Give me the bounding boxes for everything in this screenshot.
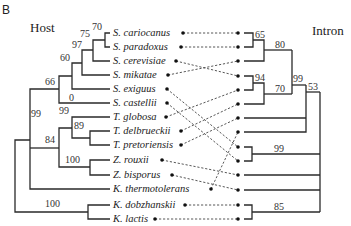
support-99-torulaspora: 99 (59, 105, 69, 116)
support-85: 85 (274, 201, 284, 212)
support-97: 97 (72, 39, 82, 50)
taxon-label: T. globosa (113, 111, 157, 122)
tanglegram: B Host Intron 70 75 97 60 66 0 (0, 0, 351, 226)
taxon-label: T. pretoriensis (113, 139, 173, 150)
taxon-label: S. exiguus (113, 83, 156, 94)
taxon-label: S. cerevisiae (113, 55, 166, 66)
panel-label: B (2, 3, 10, 17)
taxon-label: K. dobzhanskii (112, 199, 176, 210)
support-65: 65 (255, 29, 265, 40)
taxon-label: K. thermotolerans (112, 183, 189, 194)
host-title: Host (30, 20, 55, 35)
support-0: 0 (69, 92, 74, 103)
support-94: 94 (255, 72, 265, 83)
support-70-intron: 70 (275, 83, 285, 94)
taxon-label: Z. rouxii (113, 154, 149, 165)
taxon-label: S. mikatae (113, 69, 157, 80)
taxon-label: K. lactis (112, 213, 148, 224)
intron-dots (236, 31, 240, 221)
taxon-label: S. castellii (113, 97, 157, 108)
support-99-top: 99 (31, 108, 41, 119)
support-100-kluyveromyces: 100 (45, 198, 60, 209)
intron-title: Intron (312, 23, 344, 38)
support-100-zygo: 100 (65, 154, 80, 165)
support-70: 70 (92, 21, 102, 32)
support-66: 66 (45, 76, 55, 87)
taxon-label: Z. bisporus (113, 169, 160, 180)
support-89: 89 (74, 120, 84, 131)
intron-tree (244, 33, 320, 219)
taxon-label: T. delbrueckii (113, 125, 171, 136)
taxon-label: S. paradoxus (113, 41, 168, 52)
support-75: 75 (80, 28, 90, 39)
support-80: 80 (275, 39, 285, 50)
support-60: 60 (60, 52, 70, 63)
support-99-intron-upper: 99 (293, 73, 303, 84)
taxon-label: S. cariocanus (113, 27, 170, 38)
support-84: 84 (45, 134, 55, 145)
support-53: 53 (308, 81, 318, 92)
host-taxa: S. cariocanus S. paradoxus S. cerevisiae… (112, 27, 189, 224)
support-99-intron-lower: 99 (274, 143, 284, 154)
host-support-values: 70 75 97 60 66 0 99 89 84 100 99 100 (31, 21, 102, 209)
